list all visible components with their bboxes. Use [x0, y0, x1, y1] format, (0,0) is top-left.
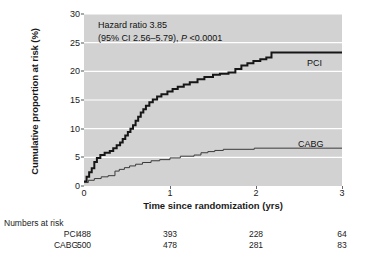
ci-text: (95% CI 2.56–5.79),: [98, 33, 181, 43]
risk-value: 500: [69, 240, 99, 251]
risk-value: 393: [155, 229, 185, 240]
x-tick-mark: [170, 186, 171, 189]
y-tick-mark: [81, 42, 84, 43]
hazard-ratio-line: Hazard ratio 3.85: [98, 19, 222, 32]
y-tick-mark: [81, 14, 84, 15]
risk-row-label: CABG: [0, 240, 78, 251]
series-label-cabg: CABG: [298, 140, 324, 149]
y-tick-mark: [81, 157, 84, 158]
series-line-cabg: [84, 148, 342, 182]
kaplan-meier-figure: Cumulative proportion at risk (%) 051015…: [0, 0, 367, 265]
x-tick-mark: [342, 186, 343, 189]
confidence-interval-line: (95% CI 2.56–5.79), P <0.0001: [98, 32, 222, 45]
y-tick-label: 10: [70, 124, 80, 133]
x-tick-label: 2: [253, 189, 258, 198]
y-tick-label: 30: [70, 10, 80, 19]
y-tick-label: 25: [70, 38, 80, 47]
y-axis-title: Cumulative proportion at risk (%): [29, 7, 40, 197]
risk-row-label: PCI: [0, 229, 78, 240]
risk-value: 228: [241, 229, 271, 240]
risk-value: 478: [155, 240, 185, 251]
y-tick-mark: [81, 128, 84, 129]
x-tick-label: 1: [167, 189, 172, 198]
series-label-pci: PCI: [307, 59, 322, 68]
x-axis-title: Time since randomization (yrs): [84, 200, 342, 211]
y-tick-label: 15: [70, 96, 80, 105]
table-row: PCI 48839322864: [0, 229, 367, 240]
numbers-at-risk-title: Numbers at risk: [4, 218, 64, 229]
risk-value: 488: [69, 229, 99, 240]
x-tick-mark: [256, 186, 257, 189]
table-row: CABG 50047828183: [0, 240, 367, 251]
y-tick-mark: [81, 100, 84, 101]
risk-value: 64: [327, 229, 357, 240]
p-value-text: <0.0001: [187, 33, 222, 43]
x-tick-label: 0: [81, 189, 86, 198]
plot-area: 051015202530 0123 Hazard ratio 3.85 (95%…: [84, 14, 342, 186]
y-tick-mark: [81, 71, 84, 72]
y-tick-label: 0: [75, 182, 80, 191]
y-tick-label: 5: [75, 153, 80, 162]
x-tick-label: 3: [339, 189, 344, 198]
statistics-annotation: Hazard ratio 3.85 (95% CI 2.56–5.79), P …: [98, 19, 222, 45]
risk-value: 281: [241, 240, 271, 251]
risk-value: 83: [327, 240, 357, 251]
y-tick-label: 20: [70, 67, 80, 76]
y-tick-mark: [81, 186, 84, 187]
